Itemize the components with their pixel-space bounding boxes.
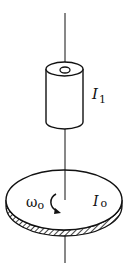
cylinder-I1 — [46, 62, 83, 129]
cylinder-hole — [60, 67, 70, 73]
diagram-canvas: I1 ωo Io — [0, 0, 130, 274]
cylinder-label: I1 — [91, 85, 106, 106]
